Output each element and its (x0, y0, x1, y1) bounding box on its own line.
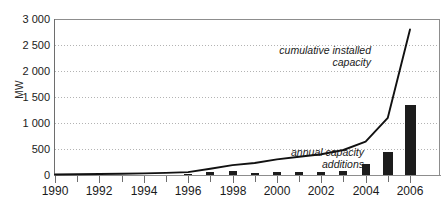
bar (339, 171, 347, 175)
x-tick-label: 1992 (76, 184, 122, 198)
bar (229, 171, 237, 175)
x-axis-line (54, 175, 441, 176)
y-axis-line (54, 19, 55, 176)
x-tick-label: 1994 (121, 184, 167, 198)
bar (383, 152, 393, 175)
x-tick (210, 176, 211, 182)
y-tick-label: 2 500 (4, 40, 50, 50)
x-tick (343, 176, 344, 182)
x-tick-label: 2000 (254, 184, 300, 198)
x-tick-label: 1990 (32, 184, 78, 198)
x-tick (99, 176, 100, 183)
x-tick-label: 2006 (387, 184, 433, 198)
y-tick-label: 2 000 (4, 66, 50, 76)
y-axis-tick-labels: 3 000 2 500 2 000 1 500 1 000 500 0 (0, 0, 50, 207)
y-tick-label: 500 (4, 144, 50, 154)
x-tick (188, 176, 189, 183)
bar (273, 172, 281, 175)
y-tick-label: 1 000 (4, 118, 50, 128)
x-tick (166, 176, 167, 182)
x-tick (122, 176, 123, 182)
x-tick (55, 176, 56, 183)
bar (405, 105, 416, 175)
x-tick (233, 176, 234, 183)
x-tick (299, 176, 300, 182)
x-tick (388, 176, 389, 182)
x-tick (144, 176, 145, 183)
x-tick-label: 2002 (298, 184, 344, 198)
bar (206, 172, 214, 175)
y-tick-label: 3 000 (4, 14, 50, 24)
bar (317, 172, 325, 175)
y-tick-label: 1 500 (4, 92, 50, 102)
bar (184, 174, 192, 175)
bar (251, 173, 259, 175)
bar (295, 172, 303, 175)
x-tick-label: 2004 (343, 184, 389, 198)
annotation-annual-capacity-additions: annual capacity additions (256, 146, 364, 170)
wind-capacity-chart: MW 3 000 2 500 2 000 1 500 1 000 500 0 1… (0, 0, 445, 207)
x-tick-label: 1998 (210, 184, 256, 198)
x-tick (255, 176, 256, 182)
x-tick-label: 1996 (165, 184, 211, 198)
x-tick (366, 176, 367, 183)
x-tick (77, 176, 78, 182)
x-tick (277, 176, 278, 183)
y-tick-label: 0 (4, 170, 50, 180)
x-tick (410, 176, 411, 183)
annotation-cumulative-installed-capacity: cumulative installed capacity (241, 44, 371, 68)
x-tick (321, 176, 322, 183)
